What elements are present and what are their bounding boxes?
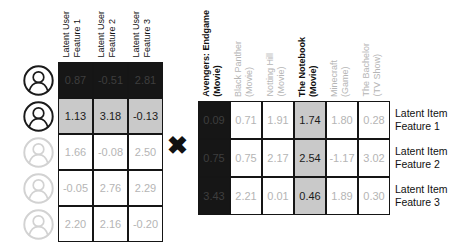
matrix-cell: 0.28 — [358, 101, 390, 139]
column-header-label: Latent User Feature 2 — [96, 11, 117, 58]
latent-item-feature-2-label: Latent Item Feature 2 — [390, 139, 456, 177]
matrix-cell: 2.76 — [93, 170, 128, 206]
column-header-label: Latent User Feature 1 — [61, 11, 82, 58]
item-header-the-notebook: The Notebook (Movie) — [294, 2, 326, 101]
matrix-cell: 1.13 — [58, 98, 93, 134]
matrix-cell: 1.91 — [262, 101, 294, 139]
user-avatar-icon — [23, 101, 54, 132]
column-header-label: Notting Hill (Movie) — [265, 53, 286, 97]
matrix-cell: 2.21 — [230, 177, 262, 215]
spacer — [23, 2, 58, 62]
matrix-cell: 0.87 — [58, 62, 93, 98]
matrix-cell: -0.08 — [93, 134, 128, 170]
matrix-cell: -0.13 — [128, 98, 163, 134]
latent-user-feature-2-header: Latent User Feature 2 — [93, 2, 128, 62]
matrix-cell: 0.75 — [198, 139, 230, 177]
user-avatar-icon — [23, 65, 54, 96]
matrix-cell: -1.17 — [326, 139, 358, 177]
item-latent-matrix: Avengers: Endgame (Movie) Black Panther … — [198, 2, 456, 215]
matrix-cell: 2.29 — [128, 170, 163, 206]
matrix-cell: 2.54 — [294, 139, 326, 177]
matrix-cell: 1.80 — [326, 101, 358, 139]
latent-user-feature-3-header: Latent User Feature 3 — [128, 2, 163, 62]
matrix-cell: 0.75 — [230, 139, 262, 177]
matrix-cell: 0.71 — [230, 101, 262, 139]
item-header-minecraft: Minecraft (Game) — [326, 2, 358, 101]
user-row-4 — [23, 170, 58, 206]
matrix-cell: 1.89 — [326, 177, 358, 215]
latent-user-feature-1-header: Latent User Feature 1 — [58, 2, 93, 62]
matrix-cell: 0.01 — [262, 177, 294, 215]
user-row-2 — [23, 98, 58, 134]
item-header-avengers-endgame: Avengers: Endgame (Movie) — [198, 2, 230, 101]
matrix-cell: 3.43 — [198, 177, 230, 215]
column-header-label: The Notebook (Movie) — [297, 37, 318, 97]
matrix-cell: 0.09 — [198, 101, 230, 139]
matrix-cell: 0.30 — [358, 177, 390, 215]
item-header-black-panther: Black Panther (Movie) — [230, 2, 262, 101]
user-row-5 — [23, 206, 58, 242]
user-avatar-icon — [23, 173, 54, 204]
matrix-cell: 2.20 — [58, 206, 93, 242]
column-header-label: Latent User Feature 3 — [131, 11, 152, 58]
matrix-factorization-diagram: Latent User Feature 1 Latent User Featur… — [0, 0, 459, 251]
matrix-cell: 2.81 — [128, 62, 163, 98]
user-row-3 — [23, 134, 58, 170]
column-header-label: Avengers: Endgame (Movie) — [201, 10, 222, 97]
item-header-the-bachelor: The Bachelor (TV Show) — [358, 2, 390, 101]
matrix-cell: -0.20 — [128, 206, 163, 242]
user-avatar-icon — [23, 209, 54, 240]
matrix-cell: 3.02 — [358, 139, 390, 177]
user-row-1 — [23, 62, 58, 98]
user-latent-matrix: Latent User Feature 1 Latent User Featur… — [23, 2, 163, 242]
matrix-cell: 1.66 — [58, 134, 93, 170]
latent-item-feature-3-label: Latent Item Feature 3 — [390, 177, 456, 215]
column-header-label: Black Panther (Movie) — [233, 41, 254, 97]
matrix-cell: 0.46 — [294, 177, 326, 215]
item-header-notting-hill: Notting Hill (Movie) — [262, 2, 294, 101]
latent-item-feature-1-label: Latent Item Feature 1 — [390, 101, 456, 139]
matrix-cell: 2.50 — [128, 134, 163, 170]
matrix-cell: 1.74 — [294, 101, 326, 139]
matrix-cell: 3.18 — [93, 98, 128, 134]
user-avatar-icon — [23, 137, 54, 168]
column-header-label: The Bachelor (TV Show) — [361, 43, 382, 97]
matrix-cell: -0.51 — [93, 62, 128, 98]
column-header-label: Minecraft (Game) — [329, 60, 350, 97]
multiply-icon: ✖ — [167, 133, 188, 158]
matrix-cell: 2.16 — [93, 206, 128, 242]
matrix-cell: -0.05 — [58, 170, 93, 206]
matrix-cell: 2.17 — [262, 139, 294, 177]
spacer — [390, 2, 456, 101]
